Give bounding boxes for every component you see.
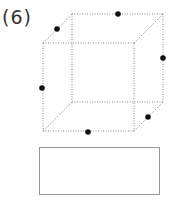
dot-top-left-edge <box>54 26 60 32</box>
edge-bottom-left <box>43 102 72 131</box>
dot-front-bottom-edge <box>85 129 91 135</box>
cube-diagram <box>0 0 179 201</box>
cube-edges <box>43 14 163 131</box>
dot-bottom-right-edge <box>145 114 151 120</box>
dot-back-right-edge <box>160 55 166 61</box>
dot-front-left-edge <box>39 85 45 91</box>
edge-top-right <box>134 14 163 43</box>
answer-box[interactable] <box>40 148 160 195</box>
dot-back-top-edge <box>115 11 121 17</box>
